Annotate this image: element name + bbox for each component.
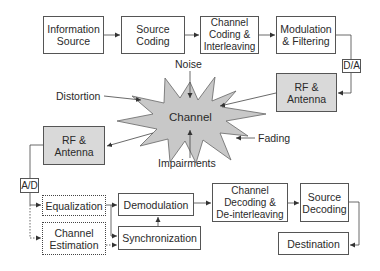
modulation-filtering-block: Modulation & Filtering [276,16,336,54]
rf-antenna-tx-block: RF & Antenna [276,73,337,112]
ad-label: A/D [21,180,38,192]
source-coding-block: Source Coding [121,16,185,54]
channel-coding-interleaving-block: Channel Coding & Interleaving [200,16,259,54]
source-decoding-block: Source Decoding [300,183,349,222]
channel-decoding-deinterleaving-block: Channel Decoding & De-interleaving [212,183,288,222]
synchronization-block: Synchronization [118,226,201,250]
channel-coding-label: Channel Coding & Interleaving [204,17,256,53]
demodulation-label: Demodulation [124,199,189,211]
equalization-block: Equalization [42,195,106,216]
destination-label: Destination [287,238,340,250]
rf-antenna-tx-label: RF & Antenna [287,81,326,105]
synchronization-label: Synchronization [122,232,197,244]
equalization-label: Equalization [45,200,102,212]
source-coding-label: Source Coding [136,23,169,47]
da-label: D/A [343,60,360,72]
modulation-label: Modulation & Filtering [280,23,331,47]
impairments-label: Impairments [158,157,216,169]
rf-antenna-rx-block: RF & Antenna [43,126,105,165]
source-decoding-label: Source Decoding [302,191,346,215]
ad-converter-block: A/D [20,178,39,193]
distortion-label: Distortion [56,90,100,102]
demodulation-block: Demodulation [118,193,194,216]
da-converter-block: D/A [342,59,361,73]
fading-label: Fading [258,132,290,144]
channel-label: Channel [169,111,212,123]
channel-decoding-label: Channel Decoding & De-interleaving [216,185,283,221]
information-source-block: Information Source [43,16,104,54]
channel-estimation-label: Channel Estimation [49,227,98,251]
rf-antenna-rx-label: RF & Antenna [54,134,93,158]
channel-estimation-block: Channel Estimation [42,222,106,255]
destination-block: Destination [278,232,349,255]
noise-label: Noise [175,58,202,70]
information-source-label: Information Source [47,23,100,47]
